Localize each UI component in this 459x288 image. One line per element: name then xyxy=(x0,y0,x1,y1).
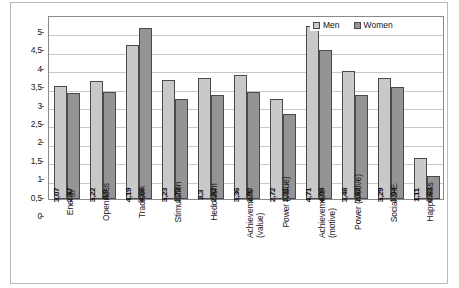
bar-men: 3,3 xyxy=(198,78,211,199)
bar-group: 1,110,63 xyxy=(409,17,445,199)
x-axis-category-label: Happiness xyxy=(426,182,436,221)
bar-value-label: 3,22 xyxy=(88,188,97,202)
bar-value-label: 3,48 xyxy=(340,188,349,202)
bar-men: 3,07 xyxy=(54,86,67,199)
bar-women: 2,87 xyxy=(67,93,80,199)
x-axis-category: Stimulation xyxy=(156,202,192,278)
x-axis-category-label: Achievement(motive) xyxy=(318,166,337,238)
x-axis-category-label: Power (value) xyxy=(282,176,292,227)
bar-value-label: 2,72 xyxy=(268,188,277,202)
bar-value-label: 3,3 xyxy=(196,190,205,200)
x-axis-category: Achievement(motive) xyxy=(300,202,336,278)
bar-value-label: 3,36 xyxy=(232,188,241,202)
bar-group: 3,222,9 xyxy=(85,17,121,199)
x-axis-category-label: Power (motive) xyxy=(354,174,364,230)
bar-value-label: 3,07 xyxy=(52,188,61,202)
bar-group: 3,32,82 xyxy=(193,17,229,199)
y-axis-tick-mark xyxy=(40,106,44,107)
bar-value-label: 3,29 xyxy=(376,188,385,202)
chart-legend: MenWomen xyxy=(310,19,396,31)
bar-value-label: 3,23 xyxy=(160,188,169,202)
legend-swatch-icon xyxy=(354,22,361,29)
x-axis-category: Tradison xyxy=(120,202,156,278)
x-axis-category: Hedonism xyxy=(192,202,228,278)
bar-value-label: 1,11 xyxy=(412,188,421,202)
bar-men: 3,36 xyxy=(234,75,247,199)
x-axis-category: Achievement(value) xyxy=(228,202,264,278)
legend-label: Women xyxy=(364,20,393,30)
y-axis-tick-mark xyxy=(40,161,44,162)
bar-value-label: 4,19 xyxy=(124,188,133,202)
y-axis-tick-mark xyxy=(40,198,44,199)
bar-value-label: 4,71 xyxy=(304,188,313,202)
legend-item-men: Men xyxy=(313,20,340,30)
bar-group: 3,072,87 xyxy=(49,17,85,199)
bar-men: 3,29 xyxy=(378,78,391,199)
caption-strip xyxy=(120,283,450,288)
x-axis-category-label: Openness xyxy=(102,183,112,221)
x-axis-category: Openness xyxy=(84,202,120,278)
bar-group: 4,194,66 xyxy=(121,17,157,199)
legend-item-women: Women xyxy=(354,20,393,30)
y-axis-tick-mark xyxy=(40,69,44,70)
y-axis: 00,511,522,533,544,55 xyxy=(12,16,44,200)
legend-label: Men xyxy=(323,20,340,30)
y-axis-tick-mark xyxy=(40,216,44,217)
legend-swatch-icon xyxy=(313,22,320,29)
bar-men: 3,22 xyxy=(90,81,103,199)
bar-group: 3,232,73 xyxy=(157,17,193,199)
y-axis-tick-mark xyxy=(40,142,44,143)
x-axis-category: Energy xyxy=(48,202,84,278)
y-axis-tick-mark xyxy=(40,32,44,33)
y-axis-tick-mark xyxy=(40,179,44,180)
bar-men: 4,19 xyxy=(126,45,139,199)
y-axis-tick-mark xyxy=(40,124,44,125)
x-axis-category-label: Achievement(value) xyxy=(246,166,265,238)
x-axis-category: Social S.E. xyxy=(372,202,408,278)
x-axis-category-labels: EnergyOpennessTradisonStimulationHedonis… xyxy=(48,202,444,278)
y-axis-tick-mark xyxy=(40,50,44,51)
x-axis-category: Power (motive) xyxy=(336,202,372,278)
bar-men: 4,71 xyxy=(306,26,319,199)
x-axis-category-label: Tradison xyxy=(138,186,148,218)
x-axis-category: Power (value) xyxy=(264,202,300,278)
bar-women: 4,66 xyxy=(139,28,152,199)
x-axis-category-label: Hedonism xyxy=(210,183,220,220)
bar-group: 3,293,04 xyxy=(373,17,409,199)
x-axis-category-label: Stimulation xyxy=(174,182,184,223)
x-axis-category-label: Energy xyxy=(66,189,76,215)
x-axis-category-label: Social S.E. xyxy=(390,182,400,222)
bar-group: 3,482,82 xyxy=(337,17,373,199)
x-axis-category: Happiness xyxy=(408,202,444,278)
bar-chart-figure: 00,511,522,533,544,55 3,072,873,222,94,1… xyxy=(0,0,459,288)
y-axis-tick-mark xyxy=(40,87,44,88)
bar-group: 2,722,31 xyxy=(265,17,301,199)
